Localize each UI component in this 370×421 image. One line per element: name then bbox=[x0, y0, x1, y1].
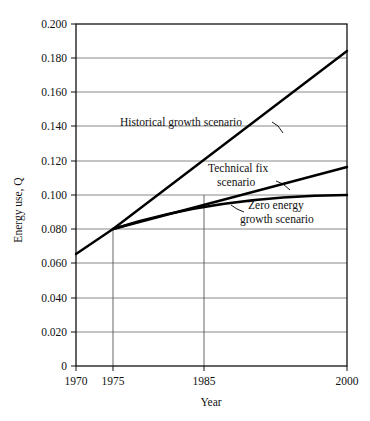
ytick-label-0.120: 0.120 bbox=[41, 155, 67, 167]
y-axis-title: Energy use, Q bbox=[12, 177, 25, 243]
ytick-label-0: 0 bbox=[61, 360, 67, 372]
xtick-label-1970: 1970 bbox=[65, 375, 88, 387]
annotation-technical-fix-line2: scenario bbox=[217, 176, 256, 188]
annotation-zero-energy-line1: Zero energy bbox=[248, 199, 304, 212]
xtick-label-1985: 1985 bbox=[193, 375, 216, 387]
ytick-label-0.160: 0.160 bbox=[41, 86, 67, 98]
ytick-label-0.100: 0.100 bbox=[41, 189, 67, 201]
x-tick-labels: 1970 1975 1985 2000 bbox=[65, 375, 359, 387]
x-tick-marks bbox=[76, 366, 347, 371]
x-axis-title: Year bbox=[200, 396, 221, 408]
xtick-label-1975: 1975 bbox=[102, 375, 125, 387]
ytick-label-0.020: 0.020 bbox=[41, 326, 67, 338]
ytick-label-0.140: 0.140 bbox=[41, 120, 67, 132]
annotation-zero-energy-line2: growth scenario bbox=[240, 213, 314, 226]
ytick-label-0.180: 0.180 bbox=[41, 52, 67, 64]
y-tick-labels: 0.200 0.180 0.160 0.140 0.120 0.100 0.08… bbox=[41, 18, 67, 372]
annotation-technical-fix-line1: Technical fix bbox=[208, 162, 268, 174]
ytick-label-0.200: 0.200 bbox=[41, 18, 67, 30]
energy-use-line-chart: 0.200 0.180 0.160 0.140 0.120 0.100 0.08… bbox=[0, 0, 370, 421]
chart-canvas: 0.200 0.180 0.160 0.140 0.120 0.100 0.08… bbox=[0, 0, 370, 421]
y-tick-marks bbox=[71, 24, 76, 366]
ytick-label-0.060: 0.060 bbox=[41, 257, 67, 269]
ytick-label-0.080: 0.080 bbox=[41, 223, 67, 235]
annotation-historical-growth-scenario: Historical growth scenario bbox=[120, 116, 242, 129]
ytick-label-0.040: 0.040 bbox=[41, 292, 67, 304]
xtick-label-2000: 2000 bbox=[336, 375, 359, 387]
